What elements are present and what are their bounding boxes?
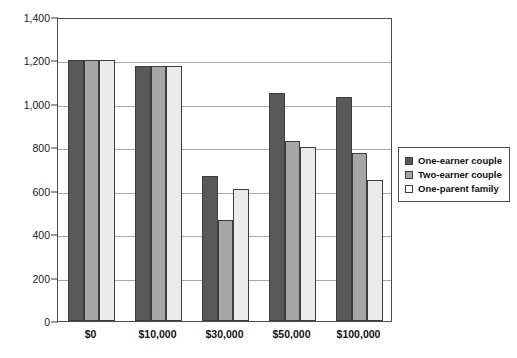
bar (202, 176, 218, 321)
legend-item-label: One-parent family (418, 184, 499, 194)
x-axis-tick-label: $50,000 (273, 328, 311, 340)
legend-swatch-icon (405, 171, 413, 179)
y-axis-tick-mark (51, 235, 58, 236)
y-axis-tick-mark (51, 278, 58, 279)
y-axis-tick-label: 1,400 (10, 13, 50, 24)
bar (336, 97, 352, 321)
legend-item-label: Two-earner couple (418, 170, 502, 180)
plot-area (57, 18, 392, 322)
legend-item: One-parent family (405, 182, 502, 195)
x-axis: $0$10,000$30,000$50,000$100,000 (57, 328, 392, 348)
y-axis-tick-label: 800 (10, 143, 50, 154)
bar-group (259, 19, 326, 321)
y-axis-tick-mark (51, 148, 58, 149)
bar (99, 60, 115, 321)
y-axis-tick-mark (51, 191, 58, 192)
bar (233, 189, 249, 321)
y-axis-tick-label: 1,000 (10, 100, 50, 111)
legend-item-label: One-earner couple (418, 156, 502, 166)
y-axis-tick-mark (51, 322, 58, 323)
bar (367, 180, 383, 321)
y-axis-tick-mark (51, 61, 58, 62)
y-axis-tick-label: 400 (10, 230, 50, 241)
y-axis-tick-label: 600 (10, 186, 50, 197)
bar (166, 66, 182, 321)
bars-layer (58, 19, 391, 321)
bar-group (326, 19, 393, 321)
y-axis-tick-label: 200 (10, 273, 50, 284)
bar (68, 60, 84, 321)
bar (84, 60, 100, 321)
bar-group (192, 19, 259, 321)
bar (135, 66, 151, 321)
y-axis-tick-label: 0 (10, 317, 50, 328)
y-axis-tick-mark (51, 104, 58, 105)
bar (352, 153, 368, 321)
bar-group (58, 19, 125, 321)
legend-item: One-earner couple (405, 154, 502, 167)
bar-chart: 02004006008001,0001,2001,400 $0$10,000$3… (0, 0, 517, 358)
bar (300, 147, 316, 321)
bar (151, 66, 167, 321)
bar (269, 93, 285, 321)
x-axis-tick-label: $10,000 (139, 328, 177, 340)
chart-legend: One-earner coupleTwo-earner coupleOne-pa… (398, 147, 510, 202)
legend-swatch-icon (405, 157, 413, 165)
x-axis-tick-label: $100,000 (337, 328, 381, 340)
y-axis-tick-mark (51, 18, 58, 19)
legend-swatch-icon (405, 185, 413, 193)
y-axis: 02004006008001,0001,2001,400 (0, 0, 50, 358)
bar (285, 141, 301, 321)
x-axis-tick-label: $30,000 (206, 328, 244, 340)
bar-group (125, 19, 192, 321)
bar (218, 220, 234, 321)
y-axis-tick-label: 1,200 (10, 56, 50, 67)
legend-item: Two-earner couple (405, 168, 502, 181)
x-axis-tick-label: $0 (85, 328, 97, 340)
